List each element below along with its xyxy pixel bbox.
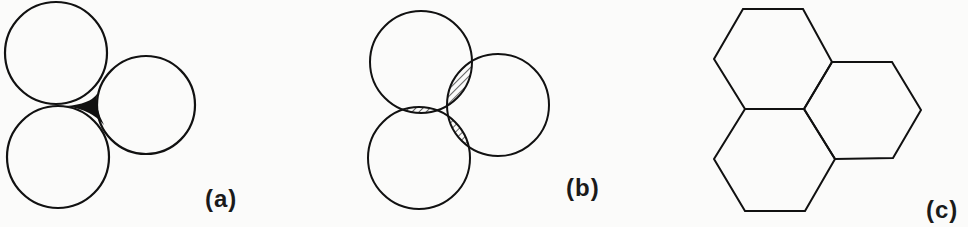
circle-right	[97, 56, 195, 154]
hexagon-bottom	[714, 109, 835, 211]
circle-top-left	[5, 2, 107, 104]
panel-label-b: (b)	[566, 174, 600, 202]
panel-label-a: (a)	[205, 185, 237, 213]
hexagon-right	[804, 62, 921, 159]
circle-bottom-left	[7, 106, 109, 208]
figure-canvas	[0, 0, 968, 227]
circle-bottom	[368, 107, 470, 209]
panel-b-overlapping-circles	[368, 11, 549, 209]
circle-right	[447, 54, 549, 156]
panel-a-tangent-circles	[5, 2, 195, 208]
panel-label-c: (c)	[926, 196, 958, 224]
panel-c-hexagons	[714, 9, 921, 211]
hexagon-top	[714, 9, 832, 109]
circle-top	[370, 11, 472, 113]
